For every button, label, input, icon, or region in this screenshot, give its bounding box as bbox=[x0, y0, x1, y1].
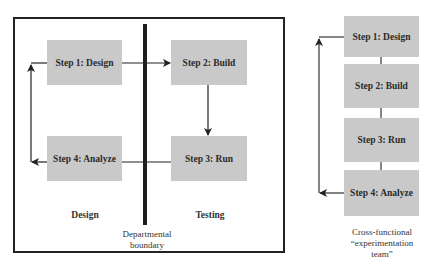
step-build-box: Step 2: Build bbox=[171, 40, 247, 85]
step-design-box: Step 1: Design bbox=[47, 40, 122, 85]
team-step-run-box: Step 3: Run bbox=[344, 118, 419, 162]
team-step-design-box: Step 1: Design bbox=[344, 16, 419, 57]
zone-label-design: Design bbox=[60, 210, 110, 220]
team-label: Cross-functional “experimentation team” bbox=[336, 227, 428, 260]
team-step-analyze-label: Step 4: Analyze bbox=[350, 188, 413, 198]
step-design-label: Step 1: Design bbox=[55, 58, 113, 68]
zone-label-testing: Testing bbox=[185, 210, 235, 220]
boundary-label-line1: Departmental bbox=[110, 229, 184, 240]
step-build-label: Step 2: Build bbox=[183, 58, 236, 68]
step-analyze-label: Step 4: Analyze bbox=[53, 154, 116, 164]
step-run-label: Step 3: Run bbox=[185, 154, 233, 164]
team-step-design-label: Step 1: Design bbox=[352, 32, 410, 42]
boundary-label-line2: boundary bbox=[110, 240, 184, 251]
team-label-line1: Cross-functional bbox=[336, 227, 428, 238]
step-analyze-box: Step 4: Analyze bbox=[47, 136, 122, 181]
step-run-box: Step 3: Run bbox=[171, 136, 247, 181]
boundary-label: Departmental boundary bbox=[110, 229, 184, 251]
team-step-build-box: Step 2: Build bbox=[344, 64, 419, 108]
team-label-line2: “experimentation bbox=[336, 238, 428, 249]
team-step-run-label: Step 3: Run bbox=[357, 135, 405, 145]
team-step-analyze-box: Step 4: Analyze bbox=[344, 170, 419, 216]
team-step-build-label: Step 2: Build bbox=[355, 81, 408, 91]
team-label-line3: team” bbox=[336, 249, 428, 260]
